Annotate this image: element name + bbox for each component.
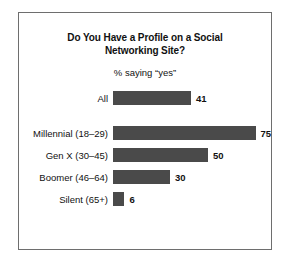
category-label-all: All: [19, 93, 113, 104]
bar-value-silent: 6: [124, 194, 134, 205]
bar-container-gen-x: 50: [113, 148, 265, 162]
chart-header: Do You Have a Profile on a Social Networ…: [19, 31, 271, 78]
chart-title: Do You Have a Profile on a Social Networ…: [33, 31, 257, 57]
chart-title-line-1: Do You Have a Profile on a Social: [67, 32, 222, 43]
category-label-gen-x: Gen X (30–45): [19, 150, 113, 161]
bar-gen-x: [113, 148, 208, 162]
chart-title-line-2: Networking Site?: [105, 45, 185, 56]
bar-value-gen-x: 50: [208, 150, 224, 161]
bar-value-boomer: 30: [170, 172, 186, 183]
bar-chart-plot-area: All 41 Millennial (18–29) 75 Gen X (30–4…: [19, 90, 271, 207]
bar-container-millennial: 75: [113, 126, 265, 140]
bar-millennial: [113, 126, 256, 140]
bar-row-silent: Silent (65+) 6: [19, 191, 265, 207]
category-label-boomer: Boomer (46–64): [19, 172, 113, 183]
bar-all: [113, 91, 191, 105]
chart-frame: Do You Have a Profile on a Social Networ…: [18, 12, 272, 250]
category-label-silent: Silent (65+): [19, 194, 113, 205]
bar-value-millennial: 75: [256, 128, 272, 139]
bar-silent: [113, 192, 124, 206]
bar-row-boomer: Boomer (46–64) 30: [19, 169, 265, 185]
bar-value-all: 41: [191, 93, 207, 104]
bar-row-millennial: Millennial (18–29) 75: [19, 125, 265, 141]
chart-subtitle: % saying “yes”: [33, 67, 257, 78]
bar-boomer: [113, 170, 170, 184]
bar-row-gen-x: Gen X (30–45) 50: [19, 147, 265, 163]
bar-container-all: 41: [113, 91, 265, 105]
category-label-millennial: Millennial (18–29): [19, 128, 113, 139]
bar-container-boomer: 30: [113, 170, 265, 184]
bar-container-silent: 6: [113, 192, 265, 206]
bar-row-all: All 41: [19, 90, 265, 106]
